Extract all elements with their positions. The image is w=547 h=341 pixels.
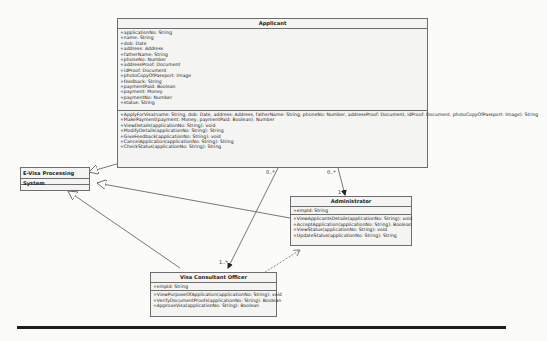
operation: +CheckStatus(applicationNo: String): Str… (120, 144, 425, 149)
operations-section: +ApplyForVisa(name: String, dob: Date, a… (118, 110, 427, 151)
class-name: E-Visa Processing System (21, 168, 89, 179)
association-applicant-officer (228, 168, 278, 268)
class-name: Visa Consultant Officer (151, 273, 276, 283)
attributes-section: +applicationNo: String +name: String +do… (118, 29, 427, 110)
operation: +ApproveVisa(applicationNo: String): Boo… (153, 303, 274, 308)
horizontal-rule (17, 326, 506, 329)
operations-section: +ViewApplicantsDetails(applicationNo: St… (291, 214, 411, 239)
class-name: Administrator (291, 197, 411, 207)
operations-section: +ViewPurposeOfApplication(applicationNo:… (151, 290, 276, 309)
multiplicity-administrator-end: 1 (338, 189, 341, 195)
generalization-applicant (89, 163, 120, 172)
class-evisa-processing-system[interactable]: E-Visa Processing System (20, 167, 90, 191)
attribute: +status: String (120, 100, 425, 105)
operation: +UpdateStatus(applicationNo: String): St… (293, 233, 409, 238)
class-visa-consultant-officer[interactable]: Visa Consultant Officer +empId: String +… (150, 272, 277, 317)
dependency-officer-administrator (262, 250, 300, 274)
attribute: +empId: String (153, 284, 274, 289)
class-administrator[interactable]: Administrator +empId: String +ViewApplic… (290, 196, 412, 246)
multiplicity-applicant-officer: 0..* (266, 169, 275, 175)
class-applicant[interactable]: Applicant +applicationNo: String +name: … (117, 18, 428, 168)
class-name: Applicant (118, 19, 427, 29)
attributes-section: +empId: String (151, 283, 276, 290)
generalization-administrator (97, 183, 290, 218)
attributes-section: +empId: String (291, 207, 411, 214)
multiplicity-officer-end: 1..* (219, 259, 228, 265)
attribute: +empId: String (293, 208, 409, 213)
generalization-officer (68, 191, 180, 268)
multiplicity-applicant-administrator: 0..* (327, 169, 336, 175)
